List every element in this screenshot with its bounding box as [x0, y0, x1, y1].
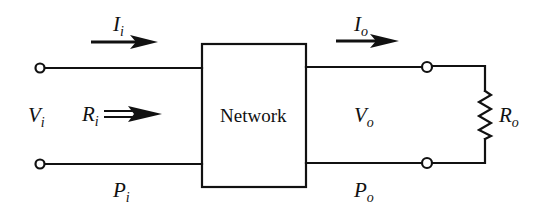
output-power-symbol: P [354, 178, 367, 202]
input-power-label: Pi [113, 180, 130, 205]
input-terminal-top [36, 64, 45, 73]
load-top-wire [432, 66, 485, 91]
input-voltage-subscript: i [41, 115, 45, 130]
load-bottom-wire [432, 139, 485, 163]
resistor-icon [479, 91, 491, 139]
output-power-subscript: o [367, 190, 374, 205]
output-power-label: Po [354, 180, 374, 205]
input-current-symbol: I [113, 12, 120, 36]
input-terminal-bottom [36, 160, 45, 169]
input-voltage-symbol: V [28, 103, 41, 127]
input-voltage-label: Vi [28, 105, 45, 130]
output-voltage-label: Vo [354, 105, 374, 130]
input-power-subscript: i [126, 190, 130, 205]
output-terminal-bottom [422, 158, 432, 168]
output-terminal-top [422, 62, 432, 72]
input-resistance-symbol: R [82, 102, 95, 126]
load-resistance-subscript: o [512, 115, 519, 130]
input-current-arrow-icon [91, 35, 158, 49]
two-port-network-diagram: Ii Io Vi Ri Network Vo Ro Pi Po [0, 0, 548, 208]
input-current-label: Ii [113, 14, 124, 39]
network-label: Network [220, 106, 286, 125]
output-voltage-symbol: V [354, 103, 367, 127]
output-current-subscript: o [361, 24, 368, 39]
output-voltage-subscript: o [367, 115, 374, 130]
input-current-subscript: i [120, 24, 124, 39]
input-power-symbol: P [113, 178, 126, 202]
input-resistance-label: Ri [82, 104, 99, 129]
load-resistance-symbol: R [499, 103, 512, 127]
load-resistance-label: Ro [499, 105, 519, 130]
input-resistance-double-arrow-icon [104, 106, 162, 122]
output-current-symbol: I [354, 12, 361, 36]
output-current-label: Io [354, 14, 368, 39]
input-resistance-subscript: i [95, 114, 99, 129]
